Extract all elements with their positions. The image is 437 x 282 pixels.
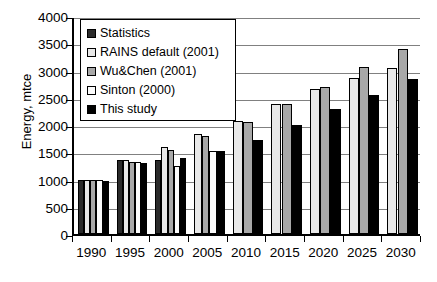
bar: [202, 136, 210, 234]
bar: [349, 78, 359, 234]
y-axis-tick-label: 500: [16, 202, 68, 216]
chart-legend: StatisticsRAINS default (2001)Wu&Chen (2…: [80, 19, 236, 121]
x-axis-tick-mark: [265, 236, 266, 242]
bar: [253, 140, 263, 234]
y-axis-tick-labels: 40003500300025002000150010005000: [16, 0, 68, 282]
bar: [408, 79, 418, 234]
y-axis-tick-label: 2000: [16, 120, 68, 134]
bar: [141, 163, 147, 234]
x-axis-tick-mark: [72, 236, 73, 242]
bar: [243, 122, 253, 234]
legend-item: Sinton (2000): [87, 81, 231, 100]
bar: [292, 125, 302, 234]
legend-label: This study: [100, 103, 157, 116]
bar: [320, 87, 330, 234]
bar-group: [345, 18, 384, 234]
x-axis-tick-mark: [343, 236, 344, 242]
bar-group: [306, 18, 345, 234]
y-axis-tick-label: 3500: [16, 38, 68, 52]
bar: [103, 181, 109, 234]
x-axis-tick-mark: [420, 236, 421, 242]
bar: [398, 49, 408, 234]
bar-group: [383, 18, 422, 234]
y-axis-tick-label: 2500: [16, 93, 68, 107]
x-axis-tick-label: 2030: [373, 245, 429, 260]
x-axis-tick-mark: [381, 236, 382, 242]
x-axis-tick-labels: 199019952000200520102015202020252030: [72, 245, 420, 267]
bar: [180, 158, 186, 234]
legend-swatch-icon: [87, 86, 96, 95]
bar: [330, 109, 340, 234]
y-axis-tick-label: 3000: [16, 66, 68, 80]
bar: [209, 151, 217, 234]
bar: [271, 104, 281, 234]
legend-item: Wu&Chen (2001): [87, 62, 231, 81]
bar: [217, 151, 225, 234]
bar: [310, 89, 320, 235]
legend-label: RAINS default (2001): [100, 46, 219, 59]
legend-item: RAINS default (2001): [87, 43, 231, 62]
bar: [369, 95, 379, 234]
legend-swatch-icon: [87, 48, 96, 57]
bar-chart: Energy, mtce 400035003000250020001500100…: [0, 0, 437, 282]
bar: [282, 104, 292, 234]
x-axis-tick-marks: [72, 236, 420, 243]
legend-label: Sinton (2000): [100, 84, 175, 97]
x-axis-tick-mark: [111, 236, 112, 242]
x-axis-tick-mark: [149, 236, 150, 242]
legend-label: Wu&Chen (2001): [100, 65, 196, 78]
legend-swatch-icon: [87, 67, 96, 76]
legend-swatch-icon: [87, 105, 96, 114]
bar: [359, 67, 369, 234]
y-axis-tick-label: 4000: [16, 11, 68, 25]
legend-item: Statistics: [87, 24, 231, 43]
y-axis-tick-label: 1500: [16, 147, 68, 161]
legend-swatch-icon: [87, 29, 96, 38]
x-axis-tick-mark: [188, 236, 189, 242]
x-axis-tick-mark: [227, 236, 228, 242]
x-axis-tick-mark: [304, 236, 305, 242]
y-axis-tick-label: 1000: [16, 175, 68, 189]
y-axis-tick-label: 0: [16, 229, 68, 243]
legend-item: This study: [87, 100, 231, 119]
bar: [233, 121, 243, 234]
bar-group: [267, 18, 306, 234]
bar: [387, 68, 397, 234]
bar: [194, 134, 202, 234]
legend-label: Statistics: [100, 27, 150, 40]
